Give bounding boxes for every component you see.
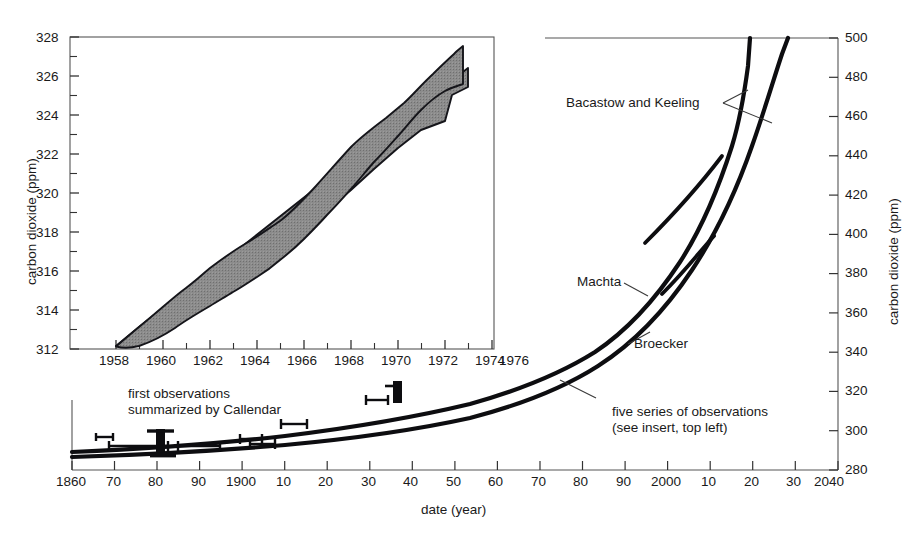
main-y-tick-280: 280 (845, 462, 868, 478)
inset-y-tick-314: 314 (36, 303, 59, 319)
error-bar-marker (281, 419, 307, 429)
main-y-axis-title: carbon dioxide (ppm) (886, 198, 902, 325)
leader-five-series (560, 380, 596, 398)
main-x-tick-2040: 2040 (814, 474, 844, 490)
main-y-tick-320: 320 (845, 383, 868, 399)
inset-y-tick-326: 326 (36, 69, 59, 85)
main-x-tick-1960: 60 (488, 474, 503, 490)
main-y-tick-360: 360 (845, 305, 868, 321)
main-y-tick-340: 340 (845, 344, 868, 360)
main-x-tick-2020: 20 (744, 474, 759, 490)
main-y-tick-400: 400 (845, 226, 868, 242)
inset-x-tick-1968: 1968 (334, 353, 364, 369)
main-y-ticks (829, 38, 838, 470)
inset-x-tick-1962: 1962 (193, 353, 223, 369)
main-y-tick-420: 420 (845, 187, 868, 203)
main-x-tick-2000: 2000 (651, 474, 681, 490)
curve-broecker (662, 236, 714, 294)
main-y-tick-380: 380 (845, 265, 868, 281)
main-y-tick-480: 480 (845, 69, 868, 85)
error-bar-marker (366, 395, 388, 405)
main-x-axis-title: date (year) (421, 502, 486, 518)
main-x-tick-1860: 1860 (56, 474, 86, 490)
annotation-first-observations: first observations summarized by Callend… (128, 386, 281, 419)
error-bar-marker (96, 433, 113, 441)
main-x-tick-2030: 30 (786, 474, 801, 490)
inset-y-tick-324: 324 (36, 108, 59, 124)
inset-x-tick-1966: 1966 (287, 353, 317, 369)
inset-x-tick-1976: 1976 (499, 353, 529, 369)
main-y-tick-500: 500 (845, 30, 868, 46)
main-x-tick-1910: 10 (276, 474, 291, 490)
main-y-tick-300: 300 (845, 423, 868, 439)
inset-x-tick-1970: 1970 (381, 353, 411, 369)
inset-x-tick-1960: 1960 (146, 353, 176, 369)
main-x-tick-1950: 50 (446, 474, 461, 490)
main-y-tick-440: 440 (845, 147, 868, 163)
main-x-tick-1900: 1900 (226, 474, 256, 490)
annotation-broecker: Broecker (634, 336, 688, 352)
main-x-tick-2010: 10 (701, 474, 716, 490)
inset-y-tick-312: 312 (36, 342, 59, 358)
main-x-tick-1970: 70 (531, 474, 546, 490)
figure-canvas: 328 326 324 322 320 318 316 314 312 carb… (0, 0, 906, 536)
main-x-tick-1930: 30 (361, 474, 376, 490)
inset-x-tick-1972: 1972 (428, 353, 458, 369)
inset-x-tick-1958: 1958 (99, 353, 129, 369)
inset-panel (70, 37, 494, 349)
inset-y-axis-title: carbon dioxide (ppm) (24, 158, 40, 285)
annotation-five-series: five series of observations (see insert,… (612, 404, 768, 437)
main-x-tick-1870: 70 (106, 474, 121, 490)
inset-y-tick-328: 328 (36, 30, 59, 46)
main-x-ticks (72, 461, 838, 470)
leader-machta (624, 283, 648, 296)
main-x-tick-1920: 20 (318, 474, 333, 490)
main-x-tick-1940: 40 (403, 474, 418, 490)
annotation-bacastow-and-keeling: Bacastow and Keeling (566, 95, 700, 111)
main-x-tick-1980: 80 (573, 474, 588, 490)
main-y-tick-460: 460 (845, 108, 868, 124)
inset-x-tick-1964: 1964 (240, 353, 270, 369)
annotation-machta: Machta (577, 274, 621, 290)
main-x-tick-1890: 90 (191, 474, 206, 490)
main-x-tick-1880: 80 (148, 474, 163, 490)
figure-svg (0, 0, 906, 536)
main-x-tick-1990: 90 (616, 474, 631, 490)
